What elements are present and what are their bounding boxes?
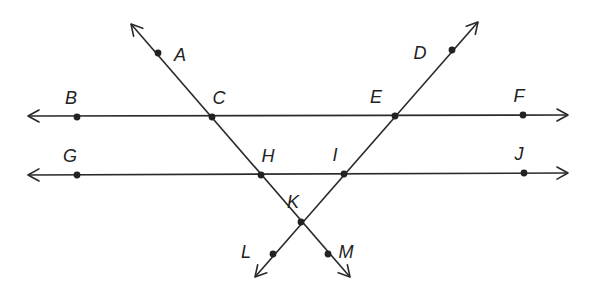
- labels-layer: ABCDEFGHIJKLM: [63, 43, 526, 262]
- point-label-i: I: [332, 145, 337, 165]
- point-label-j: J: [514, 144, 525, 164]
- horizontal-line-bottom: [28, 167, 568, 181]
- point-m: [325, 251, 332, 258]
- point-label-l: L: [241, 242, 251, 262]
- point-c: [209, 114, 216, 121]
- point-j: [521, 170, 528, 177]
- point-l: [270, 251, 277, 258]
- line-segment: [28, 115, 568, 116]
- point-label-b: B: [65, 88, 77, 108]
- point-label-a: A: [173, 45, 186, 65]
- point-e: [392, 113, 399, 120]
- line-segment: [255, 22, 478, 277]
- point-label-c: C: [213, 88, 227, 108]
- point-d: [449, 47, 456, 54]
- point-k: [298, 219, 305, 226]
- point-g: [74, 172, 81, 179]
- point-label-f: F: [514, 86, 526, 106]
- point-label-d: D: [414, 43, 427, 63]
- point-label-h: H: [262, 146, 276, 166]
- point-i: [341, 171, 348, 178]
- line-segment: [131, 24, 350, 277]
- point-label-e: E: [370, 87, 383, 107]
- horizontal-line-top: [28, 109, 568, 122]
- point-label-g: G: [63, 146, 77, 166]
- geometry-diagram: ABCDEFGHIJKLM: [0, 0, 593, 303]
- transversal-DL: [255, 22, 478, 277]
- point-a: [155, 50, 162, 57]
- point-label-k: K: [287, 192, 300, 212]
- point-b: [74, 114, 81, 121]
- point-label-m: M: [339, 242, 354, 262]
- line-segment: [28, 173, 568, 175]
- lines-layer: [28, 22, 568, 277]
- point-h: [258, 172, 265, 179]
- point-f: [520, 112, 527, 119]
- transversal-AM: [131, 24, 350, 277]
